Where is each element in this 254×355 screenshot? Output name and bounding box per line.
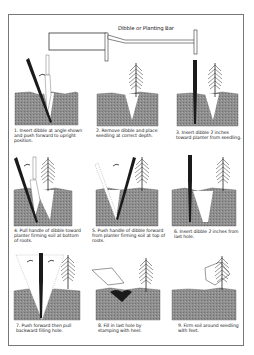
step-7-illustration <box>14 253 80 320</box>
step-1-illustration <box>15 55 78 125</box>
step-2-illustration <box>97 63 158 126</box>
step-3-illustration <box>177 60 238 126</box>
step-2-caption: 2. Remove dibble and place seedling at c… <box>96 128 160 138</box>
step-4-illustration <box>14 157 72 226</box>
step-8-illustration <box>92 258 160 320</box>
step-1-caption: 1. Insert dibble at angle shown and push… <box>14 128 84 143</box>
step-4-caption: 4. Pull handle of dibble toward planter … <box>14 228 84 243</box>
step-3-caption: 3. Insert dibble 2 inches toward planter… <box>176 130 242 140</box>
dibble-bar-label: Dibble or Planting Bar <box>118 25 174 31</box>
step-6-caption: 6. Insert dibble 2 inches from last hole… <box>174 229 240 239</box>
planting-illustrations <box>0 0 254 355</box>
step-9-caption: 9. Firm soil around seedling with feet. <box>178 323 240 333</box>
step-7-caption: 7. Push forward then pull backward filli… <box>16 323 88 333</box>
step-5-caption: 5. Push handle of dibble forward from pl… <box>92 228 168 243</box>
step-8-caption: 8. Fill in last hole by stamping with he… <box>98 323 160 333</box>
dibble-bar-icon <box>49 30 197 61</box>
step-5-illustration <box>95 157 158 226</box>
step-6-illustration <box>172 155 236 226</box>
step-9-illustration <box>172 256 236 320</box>
